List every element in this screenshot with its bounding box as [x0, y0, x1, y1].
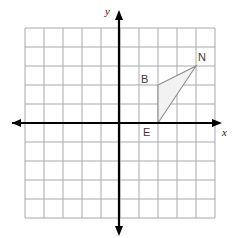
graph-canvas — [0, 0, 235, 238]
x-axis-arrow-right — [212, 119, 222, 127]
y-axis-arrow-down — [115, 226, 123, 236]
x-axis-label: x — [222, 127, 227, 138]
vertex-label-e: E — [143, 127, 150, 138]
coordinate-plane-figure: B E N y x — [0, 0, 235, 238]
x-axis-arrow-left — [12, 119, 21, 127]
vertex-label-b: B — [141, 74, 148, 85]
vertex-label-n: N — [198, 52, 206, 63]
y-axis-arrow-up — [115, 10, 123, 20]
y-axis-label: y — [105, 6, 110, 17]
